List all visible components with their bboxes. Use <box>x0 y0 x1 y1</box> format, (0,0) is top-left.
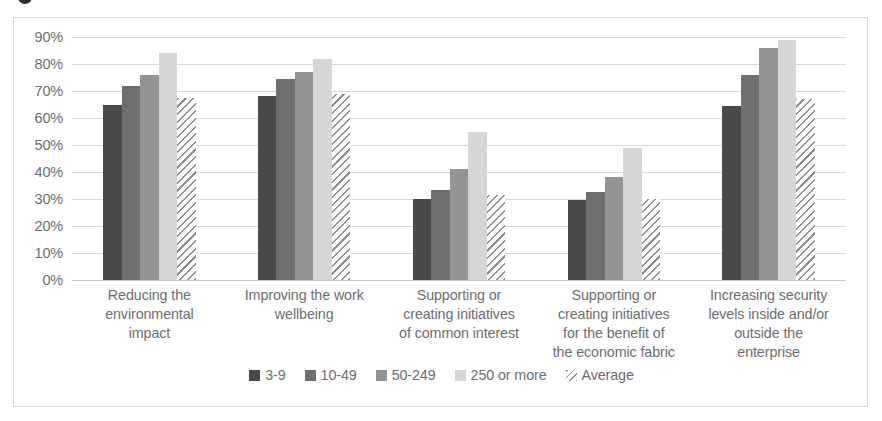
bar <box>159 53 178 280</box>
legend-item[interactable]: 250 or more <box>455 367 547 383</box>
x-axis-label-line: of common interest <box>384 324 535 343</box>
bar-group <box>382 37 537 280</box>
x-axis-label-line: wellbeing <box>229 305 380 324</box>
bar <box>313 59 332 280</box>
x-axis-label-line: Increasing security <box>693 286 844 305</box>
bar <box>122 86 141 280</box>
bar <box>276 79 295 280</box>
x-axis-category-label: Supporting orcreating initiativesof comm… <box>382 286 537 361</box>
legend-label: 250 or more <box>471 367 547 383</box>
bar <box>586 192 605 280</box>
legend-item[interactable]: 3-9 <box>249 367 285 383</box>
legend-label: 3-9 <box>265 367 285 383</box>
x-axis-label-line: creating initiatives <box>538 305 689 324</box>
bars-layer <box>72 37 846 280</box>
bar <box>258 96 277 280</box>
legend-item[interactable]: 10-49 <box>305 367 357 383</box>
x-axis-label-line: Reducing the <box>74 286 225 305</box>
legend-swatch-icon <box>376 370 387 381</box>
x-axis-label-line: impact <box>74 324 225 343</box>
legend-swatch-icon <box>455 370 466 381</box>
bar <box>413 199 432 280</box>
y-axis-tick-label: 30% <box>35 191 63 207</box>
y-axis-tick-label: 90% <box>35 29 63 45</box>
x-axis-label-line: environmental <box>74 305 225 324</box>
legend-swatch-icon <box>566 370 577 381</box>
y-axis-tick-label: 80% <box>35 56 63 72</box>
bar <box>796 99 815 280</box>
bar <box>741 75 760 280</box>
y-axis-tick-label: 20% <box>35 218 63 234</box>
bar-group <box>72 37 227 280</box>
gridline-0%: 0% <box>72 280 846 281</box>
bar <box>759 48 778 280</box>
x-axis-label-line: Supporting or <box>384 286 535 305</box>
bar <box>332 94 351 280</box>
x-axis-label-line: creating initiatives <box>384 305 535 324</box>
x-axis-label-line: enterprise <box>693 343 844 362</box>
bar <box>295 72 314 280</box>
cropped-title-glyph <box>18 0 32 4</box>
bar <box>468 132 487 281</box>
bar <box>450 169 469 280</box>
y-axis-tick-label: 60% <box>35 110 63 126</box>
bar <box>605 177 624 280</box>
bar <box>487 195 506 280</box>
chart-figure-frame: 0%10%20%30%40%50%60%70%80%90% Reducing t… <box>13 17 868 407</box>
legend-swatch-icon <box>305 370 316 381</box>
chart-plot-area: 0%10%20%30%40%50%60%70%80%90% <box>72 37 846 280</box>
legend-label: 50-249 <box>392 367 436 383</box>
y-axis-tick-label: 50% <box>35 137 63 153</box>
bar <box>722 106 741 280</box>
chart-legend: 3-910-4950-249250 or moreAverage <box>14 367 869 383</box>
x-axis-category-labels: Reducing theenvironmentalimpactImproving… <box>72 286 846 361</box>
legend-label: Average <box>582 367 634 383</box>
legend-item[interactable]: Average <box>566 367 634 383</box>
x-axis-category-label: Supporting orcreating initiativesfor the… <box>536 286 691 361</box>
bar <box>642 199 661 280</box>
legend-label: 10-49 <box>321 367 357 383</box>
bar-group <box>691 37 846 280</box>
bar <box>778 40 797 280</box>
bar <box>140 75 159 280</box>
y-axis-tick-label: 70% <box>35 83 63 99</box>
bar <box>623 148 642 280</box>
x-axis-label-line: for the benefit of <box>538 324 689 343</box>
y-axis-tick-label: 40% <box>35 164 63 180</box>
bar <box>103 105 122 281</box>
x-axis-category-label: Improving the workwellbeing <box>227 286 382 361</box>
x-axis-label-line: Improving the work <box>229 286 380 305</box>
x-axis-category-label: Increasing securitylevels inside and/oro… <box>691 286 846 361</box>
x-axis-label-line: the economic fabric <box>538 343 689 362</box>
y-axis-tick-label: 0% <box>42 272 63 288</box>
x-axis-category-label: Reducing theenvironmentalimpact <box>72 286 227 361</box>
chart-plot-wrapper: 0%10%20%30%40%50%60%70%80%90% Reducing t… <box>14 18 869 408</box>
x-axis-label-line: levels inside and/or <box>693 305 844 324</box>
bar <box>431 190 450 280</box>
legend-item[interactable]: 50-249 <box>376 367 436 383</box>
x-axis-label-line: outside the <box>693 324 844 343</box>
bar-group <box>227 37 382 280</box>
bar <box>177 98 196 280</box>
x-axis-label-line: Supporting or <box>538 286 689 305</box>
bar <box>568 200 587 280</box>
bar-group <box>536 37 691 280</box>
y-axis-tick-label: 10% <box>35 245 63 261</box>
legend-swatch-icon <box>249 370 260 381</box>
